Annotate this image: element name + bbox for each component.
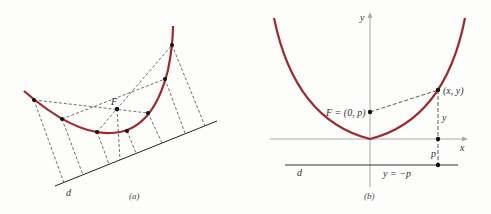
points-b <box>368 88 440 167</box>
point-label: (x, y) <box>443 85 464 97</box>
caption-b: (b) <box>364 191 375 201</box>
parabola-figure: F d (a) y x d y = −p F = (0, p) (x, y) <box>0 0 491 214</box>
directrix-label-a: d <box>66 187 72 198</box>
directrix-foot-point <box>436 163 440 167</box>
directrix-line-a <box>55 121 217 186</box>
focus-to-point-line <box>370 90 438 112</box>
y-axis-label: y <box>359 12 365 23</box>
panel-b: y x d y = −p F = (0, p) (x, y) y p (b) <box>270 12 468 201</box>
x-axis-label: x <box>459 142 465 153</box>
focus-point-b <box>368 110 372 114</box>
segment-p-label: p <box>430 148 436 159</box>
directrix-equation: y = −p <box>382 168 411 179</box>
curve-points <box>32 43 174 134</box>
segment-y-label: y <box>441 112 447 123</box>
perpendicular-lines <box>34 45 205 183</box>
parabola-curve-a <box>24 26 173 133</box>
x-axis-foot-point <box>436 137 440 141</box>
x-axis-arrow-icon <box>462 137 468 142</box>
directrix-label-b: d <box>297 167 303 178</box>
focus-label-a: F <box>110 96 118 107</box>
caption-a: (a) <box>129 191 140 201</box>
focal-lines <box>34 45 172 132</box>
focus-point-a <box>115 107 119 111</box>
y-axis-arrow-icon <box>368 12 373 18</box>
panel-a: F d (a) <box>24 26 217 201</box>
curve-point-b <box>436 88 440 92</box>
focus-label-b: F = (0, p) <box>325 107 366 119</box>
